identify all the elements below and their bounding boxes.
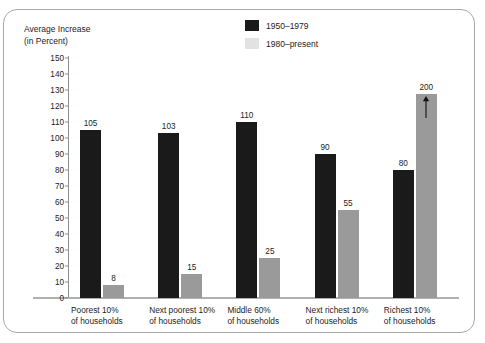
y-axis-tick-label: 100 [50, 134, 64, 143]
y-axis-tick-label: 60 [55, 198, 64, 207]
bar: 90 [315, 154, 336, 298]
category-label-line: Poorest 10% [71, 305, 123, 316]
y-axis-title: Average Increase (in Percent) [24, 24, 90, 47]
y-axis-tick-label: 80 [55, 166, 64, 175]
category-label: Next poorest 10%of households [149, 305, 215, 327]
category-label-line: of households [71, 316, 123, 327]
bar-value-label: 103 [162, 122, 176, 131]
bar-group: 11025 [224, 58, 302, 298]
y-axis-tick-label: 90 [55, 150, 64, 159]
legend-label-1950-1979: 1950–1979 [266, 21, 309, 31]
y-axis-tick-label: 70 [55, 182, 64, 191]
category-label-line: of households [227, 316, 279, 327]
bar-value-label: 8 [111, 274, 116, 283]
y-axis-tick-label: 0 [59, 294, 64, 303]
legend-swatch-1950-1979 [245, 20, 259, 31]
bar: 55 [338, 210, 359, 298]
bar-value-label: 90 [321, 143, 330, 152]
chart-legend: 1950–1979 1980–present [245, 18, 318, 54]
bar-group: 1058 [68, 58, 146, 298]
bar-value-label: 15 [187, 263, 196, 272]
category-label-line: Next richest 10% [306, 305, 369, 316]
bar: 200 [416, 94, 437, 298]
bar: 110 [236, 122, 257, 298]
category-label-line: Middle 60% [227, 305, 279, 316]
y-axis-tick-label: 110 [51, 118, 64, 127]
bar-value-label: 80 [399, 159, 408, 168]
y-axis-tick-label: 20 [55, 262, 64, 271]
category-label: Poorest 10%of households [71, 305, 123, 327]
y-axis-tick-label: 140 [50, 70, 64, 79]
bar: 25 [259, 258, 280, 298]
legend-swatch-1980-present [245, 38, 259, 49]
plot-area: 0102030405060708090100110120130140150105… [68, 58, 459, 298]
legend-label-1980-present: 1980–present [266, 39, 318, 49]
bar-group: 10315 [146, 58, 224, 298]
category-label: Middle 60%of households [227, 305, 279, 327]
y-axis-tick-label: 130 [50, 86, 64, 95]
y-axis-tick-label: 10 [55, 278, 64, 287]
y-axis-title-line1: Average Increase [24, 24, 90, 36]
category-label: Next richest 10%of households [306, 305, 369, 327]
y-axis-tick-label: 40 [55, 230, 64, 239]
category-label: Richest 10%of households [384, 305, 436, 327]
bar-value-label: 105 [84, 119, 98, 128]
category-label-line: of households [149, 316, 215, 327]
category-label-line: Next poorest 10% [149, 305, 215, 316]
bar-group: 80200 [381, 58, 459, 298]
truncation-arrow-icon [423, 96, 430, 118]
legend-item-1950-1979: 1950–1979 [245, 18, 318, 33]
bar-value-label: 25 [265, 247, 274, 256]
bar: 105 [80, 130, 101, 298]
category-label-line: of households [306, 316, 369, 327]
bar: 15 [181, 274, 202, 298]
bar: 8 [103, 285, 124, 298]
bar-value-label: 110 [240, 111, 253, 120]
y-axis-title-line2: (in Percent) [24, 36, 90, 48]
y-axis-tick-label: 150 [50, 54, 64, 63]
bar-value-label: 55 [344, 199, 353, 208]
bar-value-label: 200 [419, 83, 433, 92]
bar: 80 [393, 170, 414, 298]
bar-group: 9055 [303, 58, 381, 298]
category-label-line: Richest 10% [384, 305, 436, 316]
bar: 103 [158, 133, 179, 298]
y-axis-tick-label: 30 [55, 246, 64, 255]
category-label-line: of households [384, 316, 436, 327]
y-axis-tick-label: 50 [55, 214, 64, 223]
y-axis-tick-label: 120 [50, 102, 64, 111]
chart-figure: Average Increase (in Percent) 1950–1979 … [0, 0, 485, 343]
legend-item-1980-present: 1980–present [245, 36, 318, 51]
